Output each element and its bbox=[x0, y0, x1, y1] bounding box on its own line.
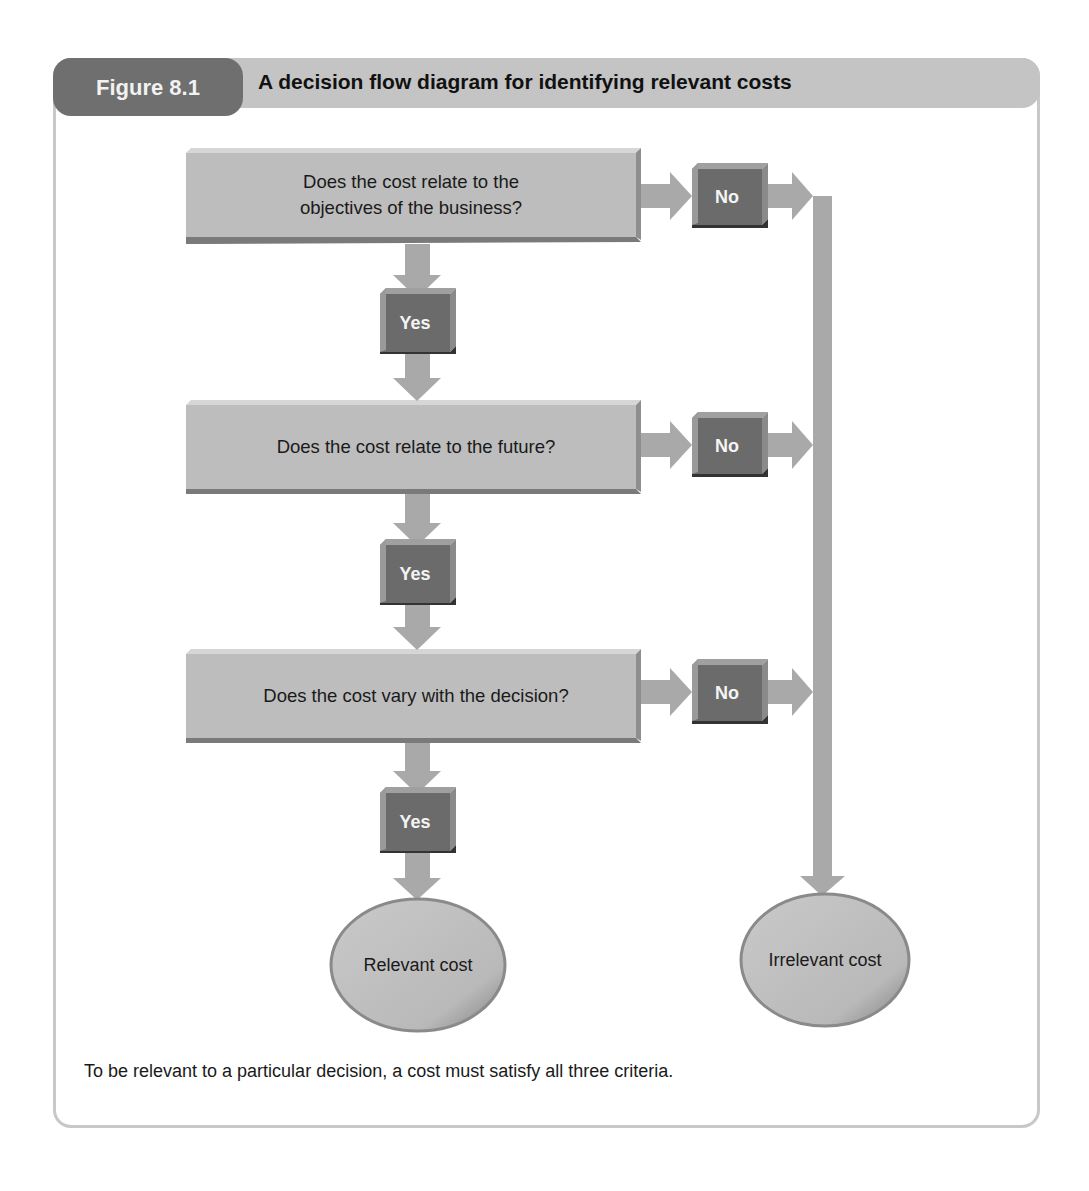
arrow-down bbox=[393, 743, 441, 794]
arrow-down bbox=[393, 852, 441, 900]
no-label-1: No bbox=[692, 169, 762, 225]
arrow-right bbox=[641, 421, 692, 469]
question-1-line-1: Does the cost relate to the bbox=[303, 169, 519, 195]
arrow-right bbox=[763, 172, 813, 220]
no-label-2: No bbox=[692, 418, 762, 474]
question-1-line-2: objectives of the business? bbox=[300, 195, 522, 221]
arrow-right bbox=[763, 421, 813, 469]
arrow-down bbox=[393, 494, 441, 546]
yes-label-1: Yes bbox=[380, 294, 450, 352]
question-3-text: Does the cost vary with the decision? bbox=[186, 654, 646, 738]
figure-caption: To be relevant to a particular decision,… bbox=[84, 1061, 673, 1082]
no-label-3: No bbox=[692, 665, 762, 721]
question-2-text: Does the cost relate to the future? bbox=[186, 405, 646, 489]
yes-label-3: Yes bbox=[380, 793, 450, 851]
yes-label-2: Yes bbox=[380, 545, 450, 603]
arrow-down bbox=[393, 603, 441, 650]
arrow-right bbox=[641, 172, 692, 220]
arrow-right bbox=[763, 668, 813, 716]
relevant-cost-label: Relevant cost bbox=[331, 935, 505, 995]
question-1-text: Does the cost relate to the objectives o… bbox=[186, 153, 636, 237]
arrow-down bbox=[393, 354, 441, 401]
arrow-right bbox=[641, 668, 692, 716]
arrow-down-irrelevant bbox=[800, 196, 845, 896]
irrelevant-cost-label: Irrelevant cost bbox=[741, 930, 909, 990]
